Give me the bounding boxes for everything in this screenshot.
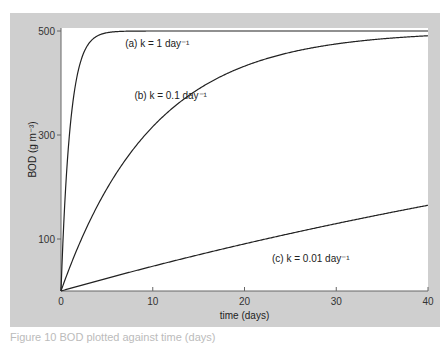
y-tick-label: 500 — [38, 26, 55, 37]
y-tick-label: 300 — [38, 130, 55, 141]
curve-annotation: (b) k = 0.1 day⁻¹ — [134, 90, 207, 101]
y-tick-label: 100 — [38, 234, 55, 245]
curve-annotation: (c) k = 0.01 day⁻¹ — [272, 253, 350, 264]
figure-caption: Figure 10 BOD plotted against time (days… — [10, 331, 215, 343]
x-tick-label: 40 — [422, 296, 434, 307]
x-tick-label: 30 — [331, 296, 343, 307]
x-tick-label: 20 — [239, 296, 251, 307]
x-tick-label: 0 — [58, 296, 64, 307]
curve-annotation: (a) k = 1 day⁻¹ — [125, 38, 190, 49]
bod-chart: 010203040100300500time (days)BOD (g m⁻³)… — [0, 0, 445, 346]
plot-area — [61, 28, 428, 291]
y-axis-label: BOD (g m⁻³) — [27, 121, 38, 177]
x-tick-label: 10 — [147, 296, 159, 307]
x-axis-label: time (days) — [220, 310, 269, 321]
